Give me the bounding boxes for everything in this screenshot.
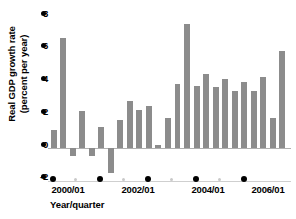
x-tick-minor-1 [74, 178, 77, 181]
x-tick-marker-2002 [97, 176, 103, 182]
x-tick-marker-2000 [50, 176, 56, 182]
gdp-growth-bar-chart: Real GDP growth rate (percent per year) … [0, 0, 296, 219]
x-axis-title: Year/quarter [50, 199, 104, 210]
x-tick-label-2004: 2004/01 [192, 184, 225, 195]
x-tick-marker-end [241, 176, 247, 182]
x-tick-label-2000: 2000/01 [52, 184, 85, 195]
x-tick-label-2006: 2006/01 [252, 184, 285, 195]
x-axis: 2000/01 2002/01 2004/01 2006/01 Year/qua… [0, 0, 296, 219]
x-tick-label-2002: 2002/01 [122, 184, 155, 195]
x-tick-minor-2 [122, 178, 125, 181]
x-tick-marker-2006 [193, 176, 199, 182]
x-tick-minor-4 [218, 178, 221, 181]
x-tick-minor-3 [170, 178, 173, 181]
x-tick-marker-2004 [145, 176, 151, 182]
